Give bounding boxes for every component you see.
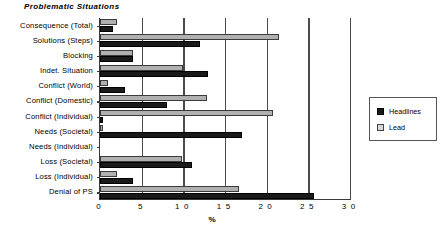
bar-lead: [100, 156, 182, 162]
bar-rows: [100, 18, 350, 200]
bar-headlines: [100, 117, 103, 123]
category-label: Conflict (World): [38, 81, 93, 90]
x-tick-label-30: 3 0: [342, 202, 356, 211]
bar-lead: [100, 65, 183, 71]
legend-label: Headlines: [389, 107, 421, 116]
bar-headlines: [100, 102, 167, 108]
bar-group: [100, 48, 350, 63]
bar-group: [100, 33, 350, 48]
bar-lead: [100, 80, 108, 86]
category-label: Solutions (Steps): [33, 36, 93, 45]
x-axis-title: %: [208, 215, 215, 224]
category-label: Needs (Societal): [34, 127, 93, 136]
bar-lead: [100, 19, 117, 25]
legend-label: Lead: [389, 123, 405, 132]
category-label: Consequence (Total): [20, 21, 93, 30]
category-label: Loss (Individual): [35, 172, 93, 181]
bar-group: [100, 185, 350, 200]
x-tick-label-0: 0: [96, 202, 102, 211]
bar-lead: [100, 50, 133, 56]
bar-group: [100, 94, 350, 109]
bar-group: [100, 18, 350, 33]
bar-headlines: [100, 132, 242, 138]
category-label: Conflict (Domestic): [26, 96, 93, 105]
x-tick-label-15: 1 5: [217, 202, 231, 211]
bar-headlines: [100, 87, 125, 93]
bar-lead: [100, 125, 103, 131]
bar-group: [100, 124, 350, 139]
category-label: Needs (Individual): [29, 142, 93, 151]
chart-title: Problematic Situations: [24, 2, 119, 11]
bar-group: [100, 170, 350, 185]
bar-headlines: [100, 178, 133, 184]
category-label: Denial of PS: [49, 187, 93, 196]
category-label: Loss (Societal): [41, 157, 93, 166]
bar-headlines: [100, 56, 133, 62]
legend-entry-headlines[interactable]: Headlines: [377, 107, 421, 116]
x-tick-label-10: 1 0: [175, 202, 189, 211]
chart-legend: HeadlinesLead: [369, 97, 437, 141]
category-label: Blocking: [63, 51, 93, 60]
gridline-30: [350, 18, 351, 200]
category-label: Conflict (Individual): [25, 112, 93, 121]
category-axis-labels: Consequence (Total)Solutions (Steps)Bloc…: [0, 18, 96, 200]
x-axis-tick-labels: 051 01 52 02 53 0: [0, 202, 442, 216]
x-tick-label-25: 2 5: [300, 202, 314, 211]
bar-group: [100, 109, 350, 124]
bar-headlines: [100, 26, 113, 32]
bar-lead: [100, 186, 239, 192]
bar-lead: [100, 34, 279, 40]
plot-area: [99, 18, 350, 200]
bar-lead: [100, 171, 117, 177]
bar-group: [100, 64, 350, 79]
bar-headlines: [100, 162, 192, 168]
legend-swatch-headlines-icon: [377, 108, 384, 115]
bar-headlines: [100, 41, 200, 47]
bar-lead: [100, 110, 273, 116]
bar-headlines: [100, 71, 208, 77]
category-label: Indet. Situation: [40, 66, 93, 75]
legend-entry-lead[interactable]: Lead: [377, 123, 405, 132]
bar-group: [100, 79, 350, 94]
bar-headlines: [100, 193, 314, 199]
bar-lead: [100, 95, 207, 101]
x-axis-line: [100, 199, 350, 200]
bar-chart: Problematic Situations Consequence (Tota…: [0, 0, 442, 243]
bar-group: [100, 139, 350, 154]
legend-swatch-lead-icon: [377, 124, 384, 131]
bar-group: [100, 155, 350, 170]
x-tick-label-20: 2 0: [258, 202, 272, 211]
x-tick-label-5: 5: [138, 202, 144, 211]
